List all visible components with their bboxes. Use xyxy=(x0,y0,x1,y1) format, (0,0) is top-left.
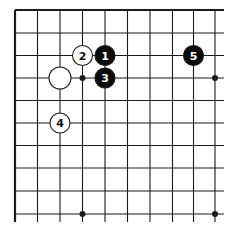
star-point xyxy=(212,75,218,81)
move-number: 3 xyxy=(101,72,109,85)
move-number: 4 xyxy=(56,117,64,130)
white-stone-2: 2 xyxy=(73,46,93,66)
grid-lines xyxy=(15,10,224,222)
black-stone-3: 3 xyxy=(95,68,115,88)
star-point xyxy=(212,211,218,217)
star-point xyxy=(80,211,86,217)
stones: 12345 xyxy=(49,46,204,134)
white-stone xyxy=(49,67,71,89)
black-stone-1: 1 xyxy=(95,46,115,66)
white-stone-4: 4 xyxy=(50,113,70,133)
move-number: 2 xyxy=(79,50,87,63)
move-number: 5 xyxy=(190,50,198,63)
black-stone-5: 5 xyxy=(184,46,204,66)
stone-disc xyxy=(49,67,71,89)
go-board: 12345 xyxy=(0,0,237,239)
move-number: 1 xyxy=(101,50,109,63)
star-point xyxy=(80,75,86,81)
